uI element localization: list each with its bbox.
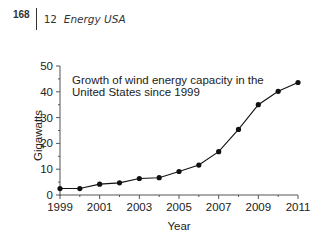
data-point — [295, 80, 300, 85]
x-tick-label: 1999 — [47, 201, 73, 213]
data-point — [77, 186, 82, 191]
line-chart: 010203040501999200120032005200720092011Y… — [0, 0, 322, 237]
chart-title: Growth of wind energy capacity in theUni… — [72, 74, 264, 98]
chart-title-line: United States since 1999 — [72, 86, 200, 98]
data-point — [117, 180, 122, 185]
data-point — [176, 169, 181, 174]
data-point — [196, 162, 201, 167]
y-tick-label: 0 — [47, 189, 53, 201]
data-point — [216, 149, 221, 154]
y-axis-label: Gigawatts — [32, 110, 44, 161]
y-tick-label: 10 — [40, 163, 53, 175]
data-point — [157, 175, 162, 180]
x-tick-label: 2011 — [286, 201, 311, 213]
chart-title-line: Growth of wind energy capacity in the — [72, 74, 264, 86]
data-point — [137, 176, 142, 181]
data-point — [57, 186, 62, 191]
data-point — [97, 182, 102, 187]
y-tick-label: 40 — [40, 86, 53, 98]
data-point — [276, 89, 281, 94]
x-axis-label: Year — [167, 220, 190, 232]
data-point — [236, 127, 241, 132]
x-tick-label: 2007 — [206, 201, 232, 213]
x-tick-label: 2009 — [246, 201, 272, 213]
y-tick-label: 50 — [40, 60, 53, 72]
data-point — [256, 102, 261, 107]
x-tick-label: 2003 — [127, 201, 153, 213]
x-tick-label: 2001 — [87, 201, 113, 213]
x-tick-label: 2005 — [166, 201, 192, 213]
